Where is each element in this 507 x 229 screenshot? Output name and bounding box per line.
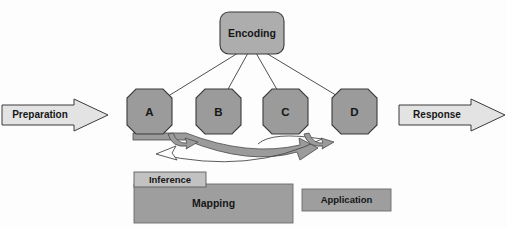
diagram-canvas: Preparation Response Encoding A B C D xyxy=(0,0,507,229)
node-b[interactable]: B xyxy=(196,89,241,134)
band-mapping[interactable]: Mapping xyxy=(134,184,293,223)
flow-arrow-preparation: Preparation xyxy=(2,99,108,131)
curved-arrow-sweep-left-head xyxy=(156,146,177,160)
band-application[interactable]: Application xyxy=(302,189,391,211)
node-c[interactable]: C xyxy=(263,89,308,134)
preparation-arrow-label: Preparation xyxy=(12,109,68,120)
node-d[interactable]: D xyxy=(332,89,377,134)
node-d-label: D xyxy=(350,106,358,118)
flow-arrow-response: Response xyxy=(399,99,505,131)
band-inference-label: Inference xyxy=(149,174,191,185)
node-a[interactable]: A xyxy=(127,89,172,134)
encoding-box[interactable]: Encoding xyxy=(220,12,284,54)
diagram-svg: Preparation Response Encoding A B C D xyxy=(0,0,507,229)
band-application-label: Application xyxy=(321,194,373,205)
connector-group xyxy=(157,53,349,103)
encoding-box-label: Encoding xyxy=(228,27,276,39)
node-c-label: C xyxy=(281,106,289,118)
node-a-label: A xyxy=(145,106,153,118)
band-mapping-label: Mapping xyxy=(192,197,235,209)
band-inference[interactable]: Inference xyxy=(134,172,206,187)
node-b-label: B xyxy=(214,106,222,118)
curved-arrow-group xyxy=(133,133,322,162)
response-arrow-label: Response xyxy=(413,109,461,120)
curved-arrow-sweep-right xyxy=(133,133,318,160)
